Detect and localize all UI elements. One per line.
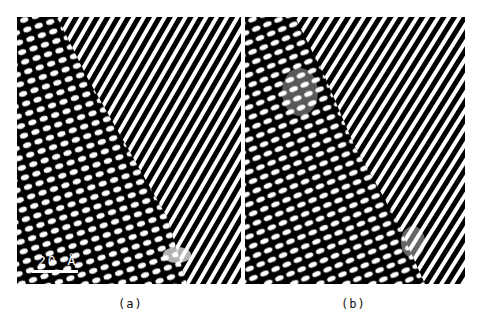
lattice-image-a: 20 Å [17,17,241,284]
lattice-image-b [245,17,465,284]
scale-bar: 20 Å [32,253,82,279]
scale-bar-line [32,270,78,273]
panel-caption-b: (b) [341,297,366,311]
scale-bar-label: 20 Å [38,253,77,268]
panel-caption-a: (a) [118,297,143,311]
lattice-pattern-b [245,17,465,284]
lattice-pattern-a [17,17,241,284]
